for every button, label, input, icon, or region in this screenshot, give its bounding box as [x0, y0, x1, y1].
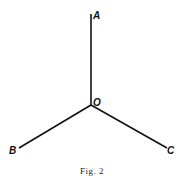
figure-caption: Fig. 2	[80, 166, 104, 176]
figure-diagram: A O B C Fig. 2	[0, 0, 185, 178]
label-c: C	[167, 145, 175, 156]
label-b: B	[9, 145, 16, 156]
ray-oc	[91, 105, 167, 148]
label-a: A	[92, 10, 100, 21]
label-o: O	[93, 97, 101, 108]
ray-ob	[19, 105, 91, 148]
